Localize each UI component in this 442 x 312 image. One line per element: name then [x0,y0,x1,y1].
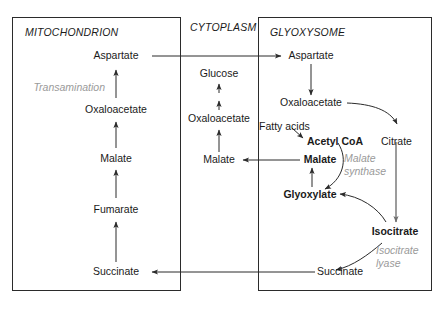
compartment-label-cytoplasm: CYTOPLASM [190,22,256,33]
compartment-label-glyoxysome: GLYOXYSOME [270,27,345,38]
metabolite-glyox-citrate: Citrate [381,136,412,147]
enzyme-label-malate-synthase: Malate synthase [344,152,386,178]
metabolite-glyox-oxaloacetate: Oxaloacetate [280,97,342,108]
metabolite-cyto-glucose: Glucose [200,68,239,79]
enzyme-label-isocitrate-lyase: Isocitrate lyase [376,244,419,270]
metabolite-mito-oxaloacetate: Oxaloacetate [85,104,147,115]
metabolite-glyox-glyoxylate: Glyoxylate [283,189,336,200]
metabolite-cyto-malate: Malate [203,154,235,165]
metabolite-mito-succinate: Succinate [93,266,139,277]
metabolite-mito-malate: Malate [100,153,132,164]
metabolite-glyox-isocitrate: Isocitrate [372,226,419,237]
enzyme-malate-synthase-line2: synthase [344,165,386,178]
metabolite-glyox-aspartate: Aspartate [289,50,334,61]
metabolite-glyox-acetyl-coa: Acetyl CoA [307,136,363,147]
metabolite-glyox-succinate: Succinate [317,266,363,277]
enzyme-malate-synthase-line1: Malate [344,152,386,165]
compartment-label-mitochondrion: MITOCHONDRION [25,27,118,38]
metabolite-mito-aspartate: Aspartate [94,50,139,61]
enzyme-label-transamination: Transamination [33,82,105,93]
metabolite-glyox-fatty-acids: Fatty acids [259,121,310,132]
metabolite-mito-fumarate: Fumarate [94,204,139,215]
metabolite-glyox-malate: Malate [304,154,337,165]
enzyme-isocitrate-lyase-line2: lyase [376,257,419,270]
metabolite-cyto-oxaloacetate: Oxaloacetate [188,113,250,124]
enzyme-isocitrate-lyase-line1: Isocitrate [376,244,419,257]
